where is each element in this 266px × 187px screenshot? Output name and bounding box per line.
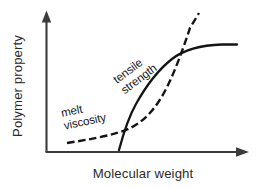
x-axis-title: Molecular weight <box>93 166 194 181</box>
polymer-property-chart: Polymer property Molecular weight melt v… <box>0 0 266 187</box>
arrow-right-icon <box>236 147 249 157</box>
chart-canvas: Polymer property Molecular weight melt v… <box>0 0 266 187</box>
y-axis-title: Polymer property <box>10 35 25 137</box>
tensile-strength-label: tensile strength <box>110 50 158 95</box>
arrow-up-icon <box>42 11 51 23</box>
melt-viscosity-label: melt viscosity <box>60 97 108 131</box>
